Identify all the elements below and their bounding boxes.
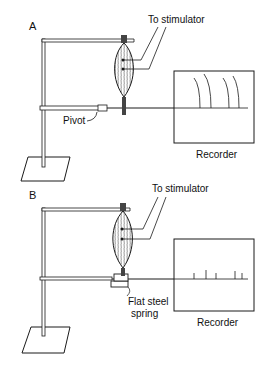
- stand-base-a: [21, 157, 70, 181]
- stimulator-label-b: To stimulator: [152, 184, 209, 194]
- recorder-label-b: Recorder: [197, 318, 238, 328]
- spring-label-line1: Flat steel: [128, 297, 169, 307]
- recorder-label-a: Recorder: [196, 150, 237, 160]
- panel-b: [22, 197, 254, 353]
- stimulator-label-a: To stimulator: [148, 15, 205, 25]
- spring-label-line2: spring: [131, 309, 158, 319]
- stand-base-b: [22, 327, 70, 353]
- lever-a: [40, 106, 106, 110]
- flat-steel-spring: [111, 281, 128, 287]
- top-arm-a: [42, 39, 134, 42]
- panel-label-a: A: [29, 21, 36, 32]
- recorder-a-box: [174, 71, 254, 143]
- stand-rod-a: [42, 39, 45, 167]
- top-arm-b: [42, 208, 130, 211]
- lever-b: [40, 277, 112, 280]
- stand-rod-b: [42, 208, 45, 336]
- panel-label-b: B: [29, 190, 36, 201]
- pivot-label: Pivot: [63, 116, 85, 126]
- pivot-a: [98, 105, 107, 111]
